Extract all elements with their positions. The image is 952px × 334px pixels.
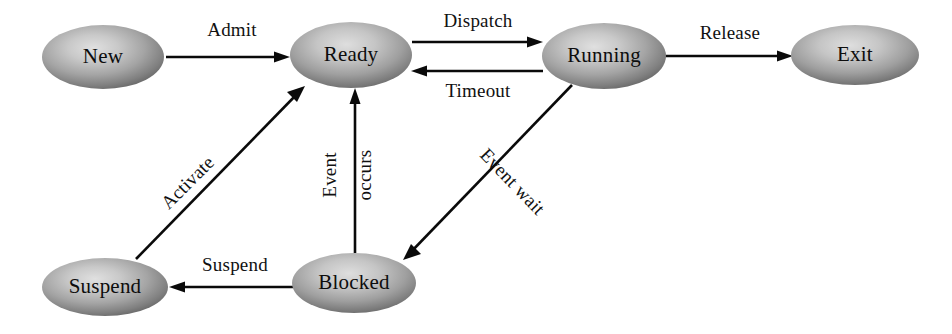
- event-wait-arrow-head: [403, 244, 421, 260]
- transition-label-event-wait: Event wait: [476, 144, 550, 219]
- timeout-arrow-head: [411, 66, 427, 77]
- activate-arrow-line: [136, 92, 299, 259]
- dispatch-arrow-head: [527, 37, 543, 48]
- transition-label-dispatch: Dispatch: [443, 10, 512, 31]
- state-label-blocked: Blocked: [318, 270, 390, 294]
- transition-release: Release: [665, 22, 793, 62]
- transition-label-suspend: Suspend: [202, 254, 268, 275]
- event-occurs-arrow-head: [350, 88, 361, 104]
- state-node-suspend[interactable]: Suspend: [42, 258, 168, 316]
- state-node-ready[interactable]: Ready: [290, 22, 412, 88]
- transition-activate: Activate: [136, 86, 305, 259]
- transition-timeout: Timeout: [411, 66, 543, 102]
- state-diagram-canvas: Admit Dispatch Timeout Release Event wai…: [0, 0, 952, 334]
- state-node-exit[interactable]: Exit: [791, 25, 919, 85]
- transition-admit: Admit: [166, 19, 290, 63]
- transition-label-activate: Activate: [157, 152, 218, 213]
- transition-label-event: Event: [319, 152, 340, 198]
- state-node-new[interactable]: New: [42, 25, 164, 89]
- state-label-suspend: Suspend: [69, 274, 142, 298]
- state-label-ready: Ready: [324, 42, 379, 66]
- suspend-arrow-head: [169, 282, 185, 293]
- release-arrow-head: [777, 51, 793, 62]
- state-node-blocked[interactable]: Blocked: [292, 253, 416, 313]
- state-label-running: Running: [567, 43, 641, 67]
- transition-label-admit: Admit: [207, 19, 257, 40]
- transition-label-release: Release: [700, 22, 760, 43]
- state-diagram-svg: Admit Dispatch Timeout Release Event wai…: [0, 0, 952, 334]
- transition-event-wait: Event wait: [403, 85, 572, 260]
- transition-event-occurs: Event occurs: [319, 88, 375, 253]
- admit-arrow-head: [274, 52, 290, 63]
- state-node-running[interactable]: Running: [542, 23, 666, 89]
- activate-arrow-head: [287, 86, 305, 102]
- state-label-exit: Exit: [837, 42, 873, 66]
- transition-dispatch: Dispatch: [412, 10, 543, 48]
- transition-label-occurs: occurs: [354, 150, 375, 201]
- state-label-new: New: [83, 44, 124, 68]
- transition-label-timeout: Timeout: [445, 80, 511, 101]
- transition-suspend: Suspend: [169, 254, 293, 293]
